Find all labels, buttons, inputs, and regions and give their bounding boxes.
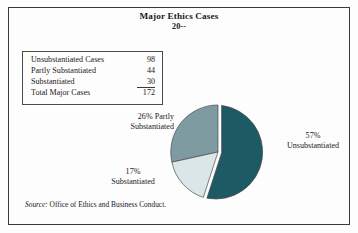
table-row: Unsubstantiated Cases 98 [31,55,155,66]
chart-title: Major Ethics Cases [0,11,358,21]
title-block: Major Ethics Cases 20-- [0,11,358,31]
callout-line-percent: 57% [272,131,354,141]
callout-line-percent: 17% [88,167,178,177]
row-label: Unsubstantiated Cases [31,55,137,66]
callout-line-percent: 26% Partly [82,112,174,122]
row-value: 98 [137,55,155,66]
pie-chart-svg [168,100,270,204]
source-note: Source: Office of Ethics and Business Co… [25,201,166,209]
source-label: Source: [25,200,48,209]
callout-line-label: Substantiated [88,177,178,187]
chart-subtitle: 20-- [0,22,358,31]
data-table: Unsubstantiated Cases 98 Partly Substant… [31,55,155,99]
row-label: Substantiated [31,76,137,87]
callout-line-label: Substantiated [82,122,174,132]
table-row: Substantiated 30 [31,76,155,87]
row-label: Total Major Cases [31,88,137,99]
data-table-box: Unsubstantiated Cases 98 Partly Substant… [22,51,163,105]
callout-line-label: Unsubstantiated [272,141,354,151]
callout-unsubstantiated: 57% Unsubstantiated [272,131,354,150]
pie-chart [168,100,270,204]
callout-partly-substantiated: 26% Partly Substantiated [82,112,174,131]
row-label: Partly Substantiated [31,66,137,77]
row-value: 172 [137,88,155,99]
row-value: 30 [137,76,155,87]
figure-container: Major Ethics Cases 20-- Unsubstantiated … [0,0,358,233]
source-text: Office of Ethics and Business Conduct. [50,200,166,209]
table-row: Partly Substantiated 44 [31,66,155,77]
row-value: 44 [137,66,155,77]
table-row-total: Total Major Cases 172 [31,88,155,99]
callout-substantiated: 17% Substantiated [88,167,178,186]
